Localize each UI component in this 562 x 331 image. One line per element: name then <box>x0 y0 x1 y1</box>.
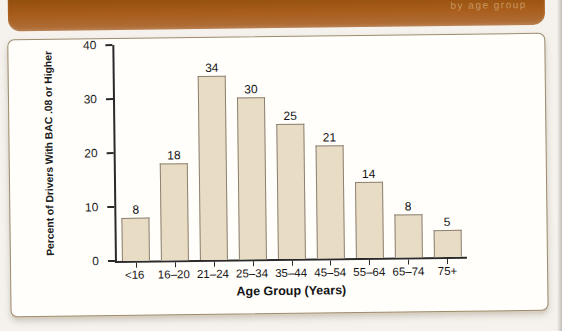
x-tick-mark <box>330 260 331 265</box>
bar-slot: 21 <box>309 42 351 258</box>
bar <box>160 163 189 261</box>
chart-panel: Percent of Drivers With BAC .08 or Highe… <box>7 33 548 318</box>
bars: 818343025211485 <box>114 41 467 261</box>
x-tick-mark <box>408 259 409 264</box>
x-tick-mark <box>136 263 137 268</box>
bar-slot: 5 <box>425 41 467 257</box>
bar-slot: 8 <box>387 41 429 257</box>
x-tick-label: 21–24 <box>193 268 232 280</box>
bar <box>276 124 306 259</box>
bar-value-label: 8 <box>132 203 139 217</box>
scanned-figure: by age group Percent of Drivers With BAC… <box>0 0 562 331</box>
figure-caption-fragment: by age group <box>450 0 527 10</box>
bar-slot: 34 <box>192 44 234 260</box>
y-axis: 010203040 <box>8 45 115 262</box>
bar-value-label: 34 <box>205 61 219 75</box>
x-tick-label: 65–74 <box>389 265 428 277</box>
bar <box>394 214 423 258</box>
bar <box>355 182 384 258</box>
bar <box>237 97 267 259</box>
bar <box>122 217 151 261</box>
x-tick-mark <box>447 259 448 264</box>
y-tick-mark <box>107 206 114 208</box>
bar-value-label: 18 <box>167 148 181 162</box>
bar-slot: 14 <box>348 42 390 258</box>
y-tick-mark <box>105 44 112 46</box>
y-tick-mark <box>108 260 115 262</box>
bar-slot: 8 <box>114 45 156 261</box>
x-tick-label: 35–44 <box>271 267 310 279</box>
x-axis-title: Age Group (Years) <box>115 282 467 300</box>
x-tick-mark <box>253 261 254 266</box>
figure-caption-bar: by age group <box>8 0 545 31</box>
x-tick-labels: <1616–2021–2425–3435–4445–5455–6465–7475… <box>115 265 467 281</box>
bar-slot: 30 <box>231 43 273 259</box>
x-tick-label: 75+ <box>428 265 467 277</box>
bar <box>315 145 344 259</box>
x-tick-mark <box>369 260 370 265</box>
y-tick-label: 0 <box>65 253 99 269</box>
y-tick-label: 20 <box>64 145 98 161</box>
bar-value-label: 25 <box>283 109 297 123</box>
bar-value-label: 14 <box>362 167 376 181</box>
bar-value-label: 8 <box>405 199 412 213</box>
bar-slot: 25 <box>270 43 312 259</box>
y-tick-label: 40 <box>62 37 96 53</box>
x-tick-label: 16–20 <box>154 268 193 280</box>
bar-value-label: 30 <box>244 82 258 96</box>
page-edge-shadow <box>557 0 562 331</box>
bar-value-label: 21 <box>323 130 337 144</box>
y-tick-label: 30 <box>63 91 97 107</box>
bar-slot: 18 <box>153 44 195 260</box>
bar <box>198 76 228 260</box>
bar <box>433 230 461 257</box>
y-tick-label: 10 <box>64 199 98 215</box>
bar-value-label: 5 <box>444 215 451 229</box>
x-tick-mark <box>291 261 292 266</box>
plot-area: 818343025211485 <box>112 41 467 263</box>
x-tick-label: 45–54 <box>311 266 350 278</box>
x-tick-label: <16 <box>115 269 154 281</box>
y-tick-mark <box>106 98 113 100</box>
x-tick-mark <box>175 262 176 267</box>
y-tick-mark <box>107 152 114 154</box>
x-tick-mark <box>214 262 215 267</box>
x-tick-label: 55–64 <box>350 266 389 278</box>
x-tick-label: 25–34 <box>232 267 271 279</box>
